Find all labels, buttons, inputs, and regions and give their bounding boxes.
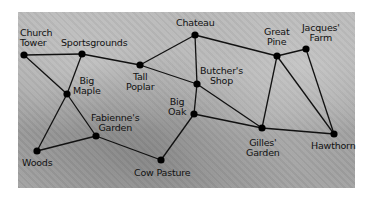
node-sportsgrounds [78,50,85,57]
edge-sportsgrounds-to-tall-poplar [82,54,140,65]
node-gilles-garden [258,124,265,131]
label-jacques-farm: Jacques' Farm [302,23,340,43]
edge-great-pine-to-gilles-garden [262,56,277,128]
edge-jacques-farm-to-hawthorn [306,49,334,134]
label-chateau: Chateau [176,18,215,28]
edge-big-maple-to-woods [37,94,67,151]
label-big-maple: Big Maple [73,76,101,96]
node-fabiennes-garden [92,132,99,139]
node-great-pine [273,52,280,59]
edge-tall-poplar-to-chateau [140,35,195,65]
node-hawthorn [330,130,337,137]
label-sportsgrounds: Sportsgrounds [61,38,127,48]
edge-church-tower-to-big-maple [24,55,67,94]
node-church-tower [20,51,27,58]
edge-great-pine-to-hawthorn [277,56,334,134]
node-chateau [191,31,198,38]
edge-woods-to-fabiennes-garden [37,136,96,151]
edge-church-tower-to-sportsgrounds [24,54,82,55]
label-hawthorn: Hawthorn [311,141,355,151]
edge-fabiennes-garden-to-cow-pasture [96,136,161,160]
node-woods [33,147,40,154]
label-big-oak: Big Oak [168,97,186,117]
label-gilles-garden: Gilles' Garden [246,138,280,158]
label-woods: Woods [22,158,52,168]
node-big-maple [63,90,70,97]
label-tall-poplar: Tall Poplar [126,72,154,92]
label-fabiennes-garden: Fabienne's Garden [91,113,139,133]
node-jacques-farm [302,45,309,52]
node-tall-poplar [136,61,143,68]
edge-big-oak-to-cow-pasture [161,114,194,160]
label-butchers-shop: Butcher's Shop [200,66,243,86]
edge-butchers-shop-to-big-oak [194,84,197,114]
label-great-pine: Great Pine [264,27,289,47]
edge-gilles-garden-to-hawthorn [262,128,334,134]
edge-great-pine-to-jacques-farm [277,49,306,56]
label-church-tower: Church Tower [20,28,52,48]
label-cow-pasture: Cow Pasture [134,168,190,178]
edge-chateau-to-butchers-shop [195,35,197,84]
node-cow-pasture [157,156,164,163]
node-big-oak [190,110,197,117]
